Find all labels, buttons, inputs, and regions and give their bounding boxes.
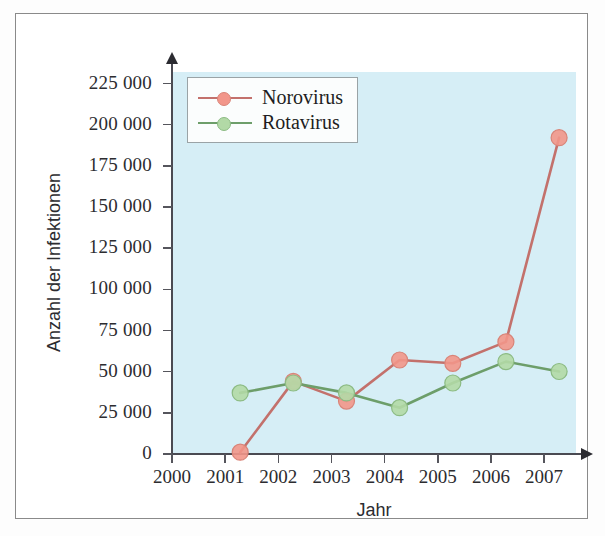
legend-item: Rotavirus bbox=[198, 110, 343, 135]
data-point-rotavirus-2007 bbox=[551, 364, 567, 380]
legend-label-rotavirus: Rotavirus bbox=[262, 111, 340, 134]
legend: Norovirus Rotavirus bbox=[187, 77, 358, 143]
figure: 025 00050 00075 000100 000125 000150 000… bbox=[0, 0, 605, 536]
data-point-norovirus-2006 bbox=[498, 334, 514, 350]
legend-swatch-norovirus bbox=[198, 92, 252, 104]
data-point-rotavirus-2001 bbox=[232, 385, 248, 401]
data-point-norovirus-2004 bbox=[392, 352, 408, 368]
legend-marker bbox=[217, 117, 231, 131]
data-point-rotavirus-2002 bbox=[285, 375, 301, 391]
legend-label-norovirus: Norovirus bbox=[262, 86, 343, 109]
data-point-rotavirus-2006 bbox=[498, 354, 514, 370]
legend-swatch-rotavirus bbox=[198, 117, 252, 129]
data-point-rotavirus-2005 bbox=[445, 375, 461, 391]
legend-item: Norovirus bbox=[198, 85, 343, 110]
figure-border: 025 00050 00075 000100 000125 000150 000… bbox=[15, 13, 588, 519]
data-point-norovirus-2005 bbox=[445, 355, 461, 371]
data-point-rotavirus-2004 bbox=[392, 400, 408, 416]
data-point-norovirus-2007 bbox=[551, 130, 567, 146]
legend-marker bbox=[217, 92, 231, 106]
data-point-norovirus-2001 bbox=[232, 444, 248, 460]
data-point-rotavirus-2003 bbox=[339, 385, 355, 401]
